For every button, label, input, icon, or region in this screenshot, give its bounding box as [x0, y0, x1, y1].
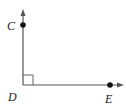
point-e	[107, 82, 113, 88]
label-e: E	[104, 92, 113, 106]
label-d: D	[7, 90, 17, 104]
label-c: C	[7, 19, 16, 33]
right-angle-diagram: C D E	[0, 0, 126, 107]
diagram-canvas: C D E	[0, 0, 126, 107]
arrow-right-icon	[117, 83, 124, 88]
arrow-up-icon	[21, 9, 26, 16]
point-c	[20, 22, 26, 28]
right-angle-marker	[23, 75, 33, 85]
